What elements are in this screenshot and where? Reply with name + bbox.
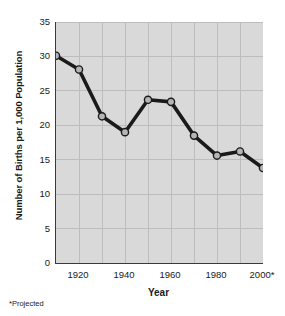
x-tick-label: 1940 [113, 269, 134, 280]
y-tick-label: 30 [24, 51, 50, 61]
x-axis-tick-labels: 19201940196019802000* [0, 269, 285, 283]
plot-svg [56, 22, 263, 263]
y-tick-label: 25 [24, 86, 50, 96]
data-point-marker [213, 152, 220, 159]
data-point-marker [75, 66, 82, 73]
y-tick-label: 0 [24, 258, 50, 268]
y-tick-label: 35 [24, 17, 50, 27]
chart-footnote: *Projected [9, 299, 44, 308]
data-point-marker [190, 132, 197, 139]
data-point-marker [98, 113, 105, 120]
x-axis-title: Year [55, 287, 262, 298]
gridlines [56, 22, 263, 263]
y-tick-label: 20 [24, 120, 50, 130]
data-line [56, 56, 263, 168]
data-point-marker [167, 98, 174, 105]
x-tick-label: 1920 [67, 269, 88, 280]
data-point-marker [144, 96, 151, 103]
plot-area [55, 22, 263, 264]
births-rate-line-chart: Number of Births per 1,000 Population 05… [0, 0, 285, 316]
y-tick-label: 5 [24, 224, 50, 234]
data-point-marker [236, 148, 243, 155]
x-tick-label: 1980 [205, 269, 226, 280]
data-point-marker [259, 164, 263, 171]
x-tick-label: 2000* [250, 269, 275, 280]
y-tick-label: 15 [24, 155, 50, 165]
data-point-marker [56, 52, 60, 59]
axis-ticks [56, 22, 263, 263]
x-tick-label: 1960 [159, 269, 180, 280]
data-point-marker [121, 129, 128, 136]
y-tick-label: 10 [24, 189, 50, 199]
